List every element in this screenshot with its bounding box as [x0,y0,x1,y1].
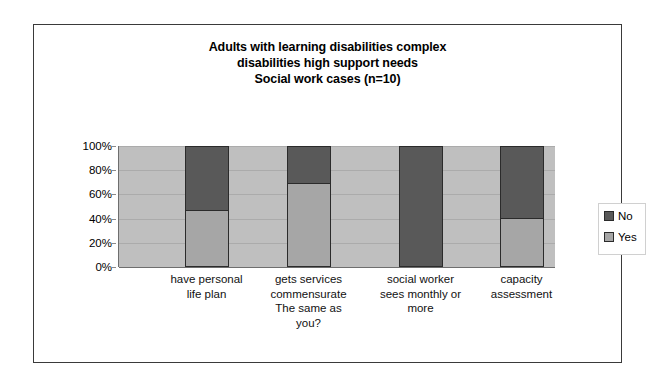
category-label-2-line-1: social worker [366,272,475,287]
bar-group-0[interactable] [185,146,229,267]
bar-segment-yes-0[interactable] [186,210,228,266]
category-label-3-line-1: capacity [467,272,576,287]
bar-stack-1[interactable] [287,146,331,267]
category-label-1-line-2: commensurate [254,287,363,302]
bar-segment-no-3[interactable] [501,147,543,218]
y-tick-label-60: 60% [89,188,112,200]
bar-stack-3[interactable] [500,146,544,267]
y-tick-mark-20 [112,243,116,244]
category-label-1: gets services commensurate The same as y… [254,272,363,330]
chart-title: Adults with learning disabilities comple… [34,39,621,87]
plot-area [119,146,555,267]
category-label-0-line-1: have personal [152,272,261,287]
y-tick-label-20: 20% [89,237,112,249]
bar-segment-yes-1[interactable] [288,183,330,266]
category-label-1-line-4: you? [254,316,363,331]
y-tick-label-80: 80% [89,164,112,176]
category-label-3: capacity assessment [467,272,576,301]
legend-swatch-yes-icon [604,232,614,242]
category-label-2-line-2: sees monthly or [366,287,475,302]
bar-group-3[interactable] [500,146,544,267]
category-label-1-line-1: gets services [254,272,363,287]
legend-label-no: No [618,210,633,222]
chart-frame: Adults with learning disabilities comple… [33,24,622,363]
y-tick-mark-100 [112,146,116,147]
category-label-2-line-3: more [366,301,475,316]
legend-label-yes: Yes [618,231,637,243]
category-label-0-line-2: life plan [152,287,261,302]
chart-title-line-2: disabilities high support needs [34,55,621,71]
chart-title-line-1: Adults with learning disabilities comple… [34,39,621,55]
y-tick-label-40: 40% [89,213,112,225]
y-tick-mark-40 [112,219,116,220]
category-label-1-line-3: The same as [254,301,363,316]
category-label-0: have personal life plan [152,272,261,301]
category-label-3-line-2: assessment [467,287,576,302]
y-tick-label-0: 0% [95,261,112,273]
y-tick-mark-0 [112,267,116,268]
bar-stack-0[interactable] [185,146,229,267]
category-label-2: social worker sees monthly or more [366,272,475,316]
bar-segment-no-2[interactable] [400,147,442,266]
chart-title-line-3: Social work cases (n=10) [34,71,621,87]
chart-legend[interactable]: No Yes [598,203,646,255]
y-tick-mark-60 [112,194,116,195]
bar-stack-2[interactable] [399,146,443,267]
bar-segment-no-1[interactable] [288,147,330,183]
y-tick-mark-80 [112,170,116,171]
x-axis-line [119,267,555,268]
x-axis: have personal life plan gets services co… [119,272,555,352]
y-tick-label-100: 100% [83,140,112,152]
bar-segment-yes-3[interactable] [501,218,543,266]
y-axis-line [118,146,119,267]
legend-entry-yes[interactable]: Yes [604,231,645,243]
y-axis: 100% 80% 60% 40% 20% 0% [34,146,116,267]
bar-group-2[interactable] [399,146,443,267]
legend-swatch-no-icon [604,211,614,221]
legend-entry-no[interactable]: No [604,210,645,222]
bar-group-1[interactable] [287,146,331,267]
chart-page: Adults with learning disabilities comple… [0,0,655,388]
bar-segment-no-0[interactable] [186,147,228,210]
